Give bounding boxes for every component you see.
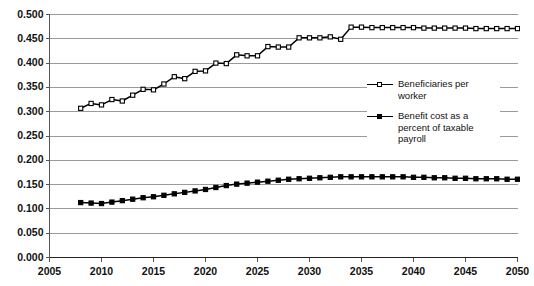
y-tick-label: 0.300 [2,105,44,117]
y-tick-label: 0.250 [2,129,44,141]
y-tick-label: 0.200 [2,153,44,165]
legend-label: Benefit cost as a percent of taxable pay… [398,110,494,145]
y-tick-label: 0.050 [2,226,44,238]
x-tick-label: 2045 [444,265,488,277]
y-tick-label: 0.150 [2,178,44,190]
legend-label: Beneficiaries per worker [398,78,494,101]
x-tick-label: 2015 [132,265,176,277]
y-tick-label: 0.450 [2,32,44,44]
x-tick-label: 2030 [288,265,332,277]
y-tick-label: 0.350 [2,80,44,92]
x-tick-label: 2040 [392,265,436,277]
y-tick-label: 0.400 [2,56,44,68]
x-tick-label: 2005 [28,265,72,277]
x-tick-label: 2010 [80,265,124,277]
legend-marker-filled-square-icon [367,111,393,122]
x-tick-label: 2025 [236,265,280,277]
x-axis-ticks [50,258,518,262]
y-tick-label: 0.000 [2,251,44,263]
y-tick-label: 0.500 [2,8,44,20]
x-tick-label: 2020 [184,265,228,277]
x-tick-label: 2035 [340,265,384,277]
x-tick-label: 2050 [496,265,534,277]
y-tick-label: 0.100 [2,202,44,214]
legend-marker-open-square-icon [367,79,393,90]
chart-legend: Beneficiaries per worker Benefit cost as… [367,74,500,147]
legend-entry-benefit-cost: Benefit cost as a percent of taxable pay… [367,110,494,145]
y-axis-ticks [46,15,50,258]
legend-entry-beneficiaries: Beneficiaries per worker [367,78,494,101]
